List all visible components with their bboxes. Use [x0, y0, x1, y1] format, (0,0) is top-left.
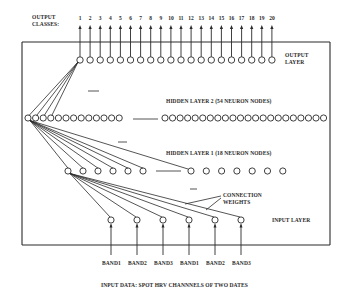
input-node — [212, 217, 218, 223]
connection-line — [30, 121, 143, 169]
connection-line — [37, 62, 78, 116]
hidden-2-node — [116, 115, 122, 121]
output-class-number: 3 — [95, 15, 105, 21]
hidden-2-node — [245, 115, 251, 121]
connection-line — [29, 62, 78, 116]
input-node — [160, 217, 166, 223]
hidden-1-node — [80, 168, 86, 174]
connection-line — [70, 174, 188, 218]
hidden-2-node — [290, 115, 296, 121]
connection-weights-label-line1: CONNECTION — [223, 192, 262, 199]
input-node — [134, 217, 140, 223]
connection-line — [70, 174, 136, 218]
hidden-layer-2-label: HIDDEN LAYER 2 (54 NEURON NODES) — [166, 98, 272, 105]
arrowhead-icon — [99, 25, 102, 29]
hidden-2-node — [33, 115, 39, 121]
hidden-1-node — [125, 168, 131, 174]
hidden-2-node — [192, 115, 198, 121]
hidden-2-node — [78, 115, 84, 121]
output-class-number: 10 — [166, 15, 176, 21]
output-node — [148, 57, 154, 63]
hidden-1-node — [203, 168, 209, 174]
arrowhead-icon — [109, 25, 112, 29]
hidden-2-node — [200, 115, 206, 121]
connection-weights-label-line2: WEIGHTS — [223, 199, 262, 206]
hidden-2-node — [86, 115, 92, 121]
connection-line — [70, 174, 110, 218]
connection-line — [44, 62, 78, 116]
arrowhead-icon — [149, 25, 152, 29]
output-classes-label-line1: OUTPUT — [32, 14, 59, 21]
hidden-layer-1-label: HIDDEN LAYER 1 (18 NEURON NODES) — [166, 150, 272, 157]
arrowhead-icon — [210, 25, 213, 29]
output-class-number: 13 — [196, 15, 206, 21]
arrowhead-icon — [89, 25, 92, 29]
arrowhead-icon — [78, 25, 81, 29]
input-band-label: BAND3 — [232, 260, 251, 267]
output-class-number: 9 — [156, 15, 166, 21]
output-classes-label-line2: CLASSES: — [32, 21, 59, 28]
neural-network-diagram — [0, 0, 349, 298]
connection-line — [52, 62, 78, 116]
hidden-layer-2-nodes — [25, 115, 327, 121]
output-class-number: 7 — [136, 15, 146, 21]
hidden-2-node — [230, 115, 236, 121]
input-band-label: BAND2 — [206, 260, 225, 267]
hidden-2-node — [298, 115, 304, 121]
hidden-2-node — [185, 115, 191, 121]
arrowhead-icon — [139, 25, 142, 29]
hidden-2-node — [93, 115, 99, 121]
hidden-2-node — [222, 115, 228, 121]
input-layer-label: INPUT LAYER — [272, 217, 310, 224]
output-class-number: 15 — [216, 15, 226, 21]
hidden-1-node — [249, 168, 255, 174]
output-node — [158, 57, 164, 63]
hidden-2-node — [305, 115, 311, 121]
input-band-label: BAND2 — [128, 260, 147, 267]
hidden-2-node — [109, 115, 115, 121]
hidden-2-node — [253, 115, 259, 121]
hidden-2-node — [275, 115, 281, 121]
output-node — [168, 57, 174, 63]
output-node — [238, 57, 244, 63]
hidden-1-node — [280, 168, 286, 174]
output-node — [228, 57, 234, 63]
hidden-2-node — [207, 115, 213, 121]
arrowhead-icon — [129, 25, 132, 29]
connection-line — [30, 121, 128, 169]
output-layer-nodes — [77, 57, 275, 63]
output-class-number: 2 — [85, 15, 95, 21]
connection-line — [70, 174, 240, 218]
input-node — [186, 217, 192, 223]
output-class-number: 12 — [186, 15, 196, 21]
connection-line — [70, 174, 214, 218]
output-class-number: 18 — [247, 15, 257, 21]
output-layer-label-line2: LAYER — [285, 59, 309, 66]
connection-line — [30, 121, 113, 169]
output-node — [127, 57, 133, 63]
hidden-2-node — [55, 115, 61, 121]
output-node — [178, 57, 184, 63]
arrowhead-icon — [162, 224, 165, 228]
output-node — [97, 57, 103, 63]
connection-line — [30, 121, 68, 169]
output-node — [107, 57, 113, 63]
arrowhead-icon — [169, 25, 172, 29]
hidden-2-node — [71, 115, 77, 121]
arrowhead-icon — [230, 25, 233, 29]
hidden-1-node — [219, 168, 225, 174]
input-band-label: BAND3 — [154, 260, 173, 267]
arrowhead-icon — [188, 224, 191, 228]
output-class-number: 8 — [146, 15, 156, 21]
connection-line — [30, 121, 98, 169]
hidden-2-node — [313, 115, 319, 121]
output-node — [208, 57, 214, 63]
output-node — [198, 57, 204, 63]
hidden-2-node — [283, 115, 289, 121]
arrowhead-icon — [260, 25, 263, 29]
output-classes-label: OUTPUT CLASSES: — [32, 14, 59, 28]
hidden-2-node — [48, 115, 54, 121]
output-class-number: 20 — [267, 15, 277, 21]
output-layer-label: OUTPUT LAYER — [285, 52, 309, 66]
output-class-number: 14 — [206, 15, 216, 21]
